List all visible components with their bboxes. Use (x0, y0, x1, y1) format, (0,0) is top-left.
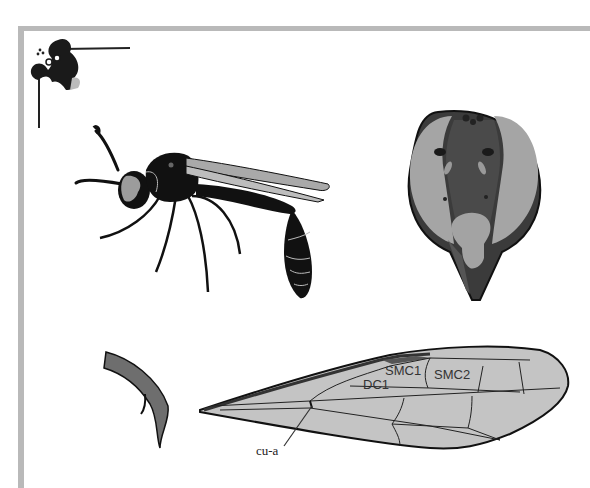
corner-ornament-icon (31, 39, 130, 128)
label-smc2: SMC2 (434, 367, 470, 382)
illustration-canvas: SMC1 SMC2 DC1 cu-a (0, 0, 590, 488)
tarsal-claw-illustration (104, 352, 168, 448)
forewing-venation-illustration: SMC1 SMC2 DC1 cu-a (200, 347, 568, 458)
label-cu-a: cu-a (256, 443, 279, 458)
label-smc1: SMC1 (385, 363, 421, 378)
wasp-lateral-illustration (76, 127, 329, 298)
label-dc1: DC1 (363, 377, 389, 392)
wasp-head-frontal-illustration (409, 111, 541, 300)
